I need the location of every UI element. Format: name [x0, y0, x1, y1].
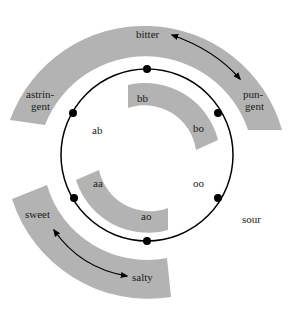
label-bb: bb: [137, 92, 148, 104]
label-bitter: bitter: [136, 28, 159, 40]
label-pungent-1: pun-: [243, 88, 263, 100]
label-sour: sour: [242, 213, 261, 225]
label-astringent-1: astrin-: [26, 88, 54, 100]
label-salty: salty: [132, 271, 153, 283]
label-bo: bo: [193, 122, 204, 134]
label-ab: ab: [92, 124, 102, 136]
label-aa: aa: [93, 177, 103, 189]
label-sweet: sweet: [25, 208, 50, 220]
label-ao: ao: [141, 210, 151, 222]
label-pungent-2: gent: [245, 100, 264, 112]
diagram-graphics: [0, 0, 292, 309]
outer-taste-band: [10, 26, 282, 130]
label-oo: oo: [193, 177, 204, 189]
label-astringent-2: gent: [31, 100, 50, 112]
inner-lower-band: [76, 170, 168, 233]
taste-diagram: bitter astrin- gent pun- gent bb bo ab a…: [0, 0, 292, 309]
